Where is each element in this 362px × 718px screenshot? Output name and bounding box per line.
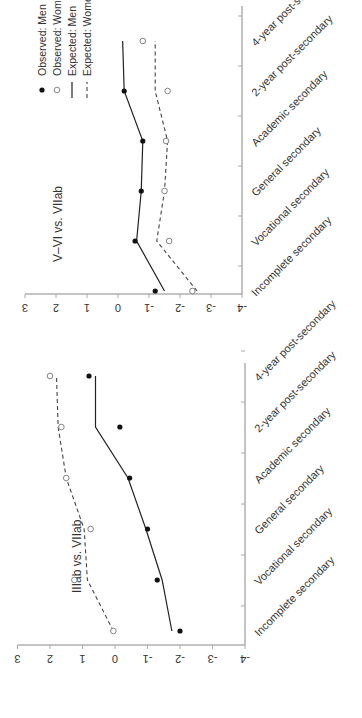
y-tick-label: -4 <box>240 653 250 665</box>
observed-women-point <box>190 288 196 294</box>
open-dot-icon <box>54 87 60 93</box>
x-axis: Incomplete secondaryVocational secondary… <box>241 297 338 645</box>
observed-women-point <box>165 88 171 94</box>
observed-men-point <box>145 526 150 531</box>
observed-men-point <box>155 577 160 582</box>
y-tick-label: 3 <box>22 302 28 314</box>
legend-item-expected-men: Expected: Men <box>66 6 78 98</box>
x-tick-label: 4-year post-secondary <box>252 297 338 383</box>
legend-label: Observed: Men <box>36 4 48 76</box>
observed-men-point <box>132 238 137 243</box>
observed-women-point <box>72 577 78 583</box>
y-axis: 3210-1-2-3-4 <box>14 645 249 665</box>
legend-item-expected-women: Expected: Women <box>81 0 93 98</box>
observed-men-point <box>122 88 127 93</box>
legend-label: Expected: Women <box>81 0 93 76</box>
y-axis: 3210-1-2-3-4 <box>22 294 247 314</box>
figure: 3210-1-2-3-4 Incomplete secondaryVocatio… <box>0 0 362 718</box>
expected-men-line <box>96 376 172 631</box>
plot-area <box>47 373 182 634</box>
x-axis: Incomplete secondaryVocational secondary… <box>238 0 335 298</box>
plot-area <box>122 38 197 294</box>
y-tick-label: 2 <box>53 302 59 314</box>
legend-label: Observed: Women <box>51 0 63 76</box>
panel-title: V–VI vs. VIIab <box>51 186 65 262</box>
observed-men-point <box>153 288 158 293</box>
y-tick-label: -3 <box>208 653 218 665</box>
observed-women-point <box>166 238 172 244</box>
y-tick-label: -4 <box>237 302 247 314</box>
observed-women-point <box>88 526 94 532</box>
y-tick-label: -1 <box>143 653 153 665</box>
expected-men-line <box>123 41 165 291</box>
y-tick-label: 1 <box>84 302 90 314</box>
y-tick-label: 0 <box>115 302 121 314</box>
observed-women-point <box>162 188 168 194</box>
observed-men-point <box>127 475 132 480</box>
y-tick-label: -2 <box>175 302 185 314</box>
panel-iiiab-vs-viiab: 3210-1-2-3-4 Incomplete secondaryVocatio… <box>14 297 338 665</box>
figure-svg: 3210-1-2-3-4 Incomplete secondaryVocatio… <box>0 0 362 718</box>
observed-women-point <box>59 424 65 430</box>
observed-women-point <box>63 475 69 481</box>
observed-men-point <box>177 628 182 633</box>
legend-label: Expected: Men <box>66 6 78 76</box>
observed-men-point <box>86 373 91 378</box>
observed-women-point <box>47 373 53 379</box>
y-tick-label: 3 <box>14 653 20 665</box>
y-tick-label: 1 <box>79 653 85 665</box>
observed-women-point <box>163 138 169 144</box>
observed-men-point <box>140 138 145 143</box>
y-tick-label: -3 <box>206 302 216 314</box>
y-tick-label: 0 <box>112 653 118 665</box>
observed-women-point <box>140 38 146 44</box>
panel-v-vi-vs-viiab: 3210-1-2-3-4 Incomplete secondaryVocatio… <box>22 0 335 314</box>
observed-men-point <box>139 188 144 193</box>
legend-item-observed-women: Observed: Women <box>51 0 63 93</box>
y-tick-label: -2 <box>175 653 185 665</box>
y-tick-label: -1 <box>144 302 154 314</box>
legend-item-observed-men: Observed: Men <box>36 4 48 93</box>
x-tick-label: 2-year post-secondary <box>249 12 335 98</box>
observed-men-point <box>117 424 122 429</box>
expected-women-line <box>155 41 197 291</box>
legend: Observed: Men Observed: Women Expected: … <box>36 0 93 98</box>
observed-women-point <box>111 628 117 634</box>
expected-women-line <box>57 376 114 631</box>
filled-dot-icon <box>39 87 44 92</box>
y-tick-label: 2 <box>47 653 53 665</box>
